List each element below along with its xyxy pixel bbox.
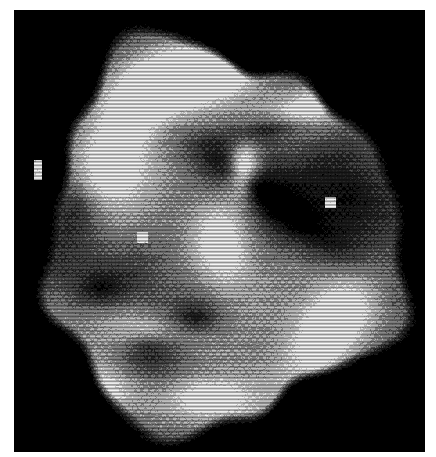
- image-plate-page: [0, 0, 436, 457]
- halftone-image-canvas: [14, 10, 425, 452]
- black-field-frame: [14, 10, 425, 452]
